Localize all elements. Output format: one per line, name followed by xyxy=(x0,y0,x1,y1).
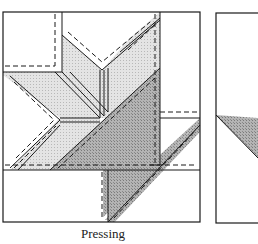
white-square-topleft xyxy=(3,12,62,72)
right-panel xyxy=(216,13,258,223)
figure-caption: Pressing xyxy=(62,226,144,242)
main-panel xyxy=(3,12,200,222)
white-rect-right xyxy=(160,12,200,118)
white-rect-bottom xyxy=(3,170,103,222)
pressing-diagram xyxy=(0,0,258,244)
